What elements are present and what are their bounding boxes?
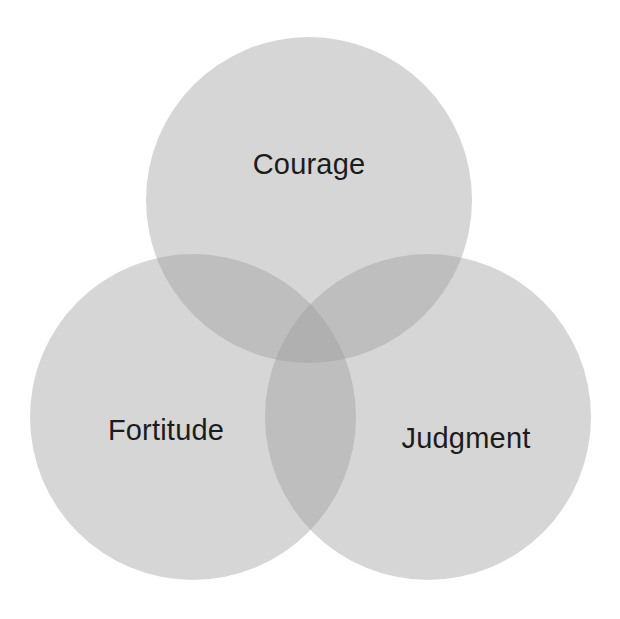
judgment-label: Judgment xyxy=(402,422,531,455)
courage-label: Courage xyxy=(253,148,366,181)
judgment-circle xyxy=(265,254,591,580)
fortitude-label: Fortitude xyxy=(108,414,224,447)
venn-diagram xyxy=(0,0,620,619)
